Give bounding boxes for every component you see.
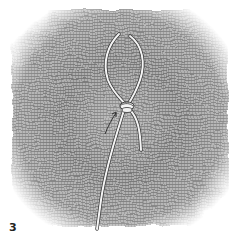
- knot-illustration: [0, 0, 234, 240]
- knot: [120, 102, 134, 113]
- figure-number: 3: [9, 222, 17, 233]
